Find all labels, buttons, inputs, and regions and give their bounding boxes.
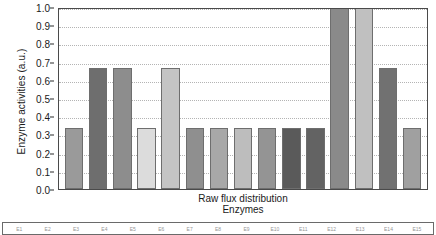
y-axis-tick-label: 0.3 — [36, 130, 50, 141]
y-axis-tick-label: 0.6 — [36, 75, 50, 86]
bar[interactable] — [210, 128, 228, 189]
y-axis-tick-label: 0.8 — [36, 39, 50, 50]
legend-entry: E8 — [204, 226, 232, 232]
bar-slot — [86, 9, 110, 189]
legend-entry: E2 — [33, 226, 61, 232]
bar[interactable] — [137, 128, 155, 189]
y-axis-tick-mark — [50, 99, 54, 100]
y-axis-tick-mark — [50, 62, 54, 63]
y-axis-tick-mark — [50, 26, 54, 27]
bar-slot — [400, 9, 424, 189]
legend-entry: E7 — [175, 226, 203, 232]
bar[interactable] — [330, 8, 348, 189]
y-axis-tick-mark — [50, 171, 54, 172]
bar-slot — [303, 9, 327, 189]
legend-entry: E13 — [346, 226, 374, 232]
x-axis-label: Enzymes — [58, 204, 428, 215]
bar[interactable] — [403, 128, 421, 189]
y-axis-tick-label: 0.2 — [36, 148, 50, 159]
y-axis-tick-label: 0.4 — [36, 112, 50, 123]
bar-slot — [159, 9, 183, 189]
legend-entry: E9 — [232, 226, 260, 232]
bar[interactable] — [161, 68, 179, 189]
y-axis-tick-label: 0.5 — [36, 94, 50, 105]
bar[interactable] — [186, 128, 204, 189]
bar-slot — [352, 9, 376, 189]
y-axis-tick-mark — [50, 8, 54, 9]
bar[interactable] — [113, 68, 131, 189]
legend-entry: E14 — [374, 226, 402, 232]
legend-entry: E1 — [5, 226, 33, 232]
bar[interactable] — [258, 128, 276, 189]
legend-entry: E4 — [90, 226, 118, 232]
y-axis-tick-label: 0.0 — [36, 185, 50, 196]
bar[interactable] — [379, 68, 397, 189]
y-axis-tick-mark — [50, 117, 54, 118]
y-axis-tick-label: 1.0 — [36, 3, 50, 14]
y-axis-tick-label: 0.9 — [36, 21, 50, 32]
bar-slot — [231, 9, 255, 189]
y-axis-tick-label: 0.1 — [36, 166, 50, 177]
bar[interactable] — [234, 128, 252, 189]
bar-slot — [110, 9, 134, 189]
plot-area — [58, 8, 428, 190]
y-axis-tick-mark — [50, 153, 54, 154]
legend-entry: E6 — [147, 226, 175, 232]
legend-entry: E3 — [62, 226, 90, 232]
y-axis-tick-label: 0.7 — [36, 57, 50, 68]
legend-box: E1E2E3E4E5E6E7E8E9E10E11E12E13E14E15 — [2, 222, 434, 235]
legend-entry: E10 — [261, 226, 289, 232]
bar[interactable] — [89, 68, 107, 189]
y-axis-tick-mark — [50, 80, 54, 81]
y-axis-tick-mark — [50, 135, 54, 136]
bar-slot — [62, 9, 86, 189]
bar-slot — [207, 9, 231, 189]
y-axis-tick-mark — [50, 44, 54, 45]
bar-chart-figure: Enzyme activities (a.u.) 1.00.90.80.70.6… — [0, 0, 436, 235]
y-axis-tick-mark — [50, 190, 54, 191]
bar-slot — [279, 9, 303, 189]
legend-entry: E5 — [119, 226, 147, 232]
legend-entry: E11 — [289, 226, 317, 232]
bar-series — [59, 9, 427, 189]
legend-entry: E15 — [403, 226, 431, 232]
y-axis-tick-labels: 1.00.90.80.70.60.50.40.30.20.10.0 — [18, 8, 54, 190]
chart-title: Raw flux distribution — [58, 193, 428, 204]
bar-slot — [255, 9, 279, 189]
bar-slot — [183, 9, 207, 189]
bar[interactable] — [306, 128, 324, 189]
legend-entry: E12 — [317, 226, 345, 232]
bar[interactable] — [282, 128, 300, 189]
bar[interactable] — [65, 128, 83, 189]
bar-slot — [328, 9, 352, 189]
bar-slot — [376, 9, 400, 189]
bar[interactable] — [355, 8, 373, 189]
bar-slot — [134, 9, 158, 189]
